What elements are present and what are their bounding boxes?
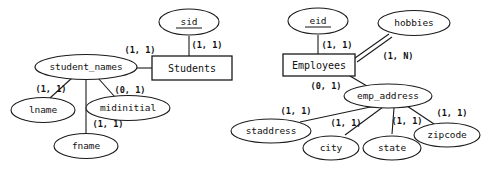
attribute-city-label: city [320, 142, 343, 153]
edge-student-names-midinitial [98, 78, 115, 97]
cardinality-hobbies-employees: (1, N) [382, 51, 413, 61]
attribute-student-names-label: student_names [49, 61, 122, 72]
attribute-hobbies-label: hobbies [394, 17, 433, 28]
er-diagram-canvas: sid Students student_names lname midinit… [0, 0, 482, 169]
cardinality-eid-employees: (1, 1) [321, 40, 352, 50]
cardinality-state: (1, 1) [391, 116, 422, 126]
entity-employees-label: Employees [292, 60, 346, 71]
cardinality-fname: (1, 1) [92, 119, 123, 129]
cardinality-zipcode: (1, 1) [436, 108, 467, 118]
cardinality-student-names-students: (1, 1) [124, 45, 155, 55]
cardinality-emp-address-employees: (0, 1) [310, 81, 341, 91]
cardinality-sid-students: (1, 1) [191, 40, 222, 50]
attribute-emp-address-label: emp_address [357, 90, 419, 101]
attribute-lname-label: lname [29, 104, 57, 115]
cardinality-staddress: (1, 1) [280, 106, 311, 116]
attribute-state-label: state [378, 142, 406, 153]
attribute-eid-label: eid [310, 15, 327, 26]
entity-students-label: Students [168, 63, 216, 74]
cardinality-midinitial: (0, 1) [114, 85, 145, 95]
attribute-staddress-label: staddress [246, 125, 297, 136]
attribute-sid-label: sid [181, 16, 198, 27]
cardinality-city: (1, 1) [330, 118, 361, 128]
attribute-fname-label: fname [72, 140, 100, 151]
attribute-midinitial-label: midinitial [100, 102, 156, 113]
attribute-zipcode-label: zipcode [427, 129, 467, 140]
cardinality-lname: (1, 1) [35, 84, 66, 94]
